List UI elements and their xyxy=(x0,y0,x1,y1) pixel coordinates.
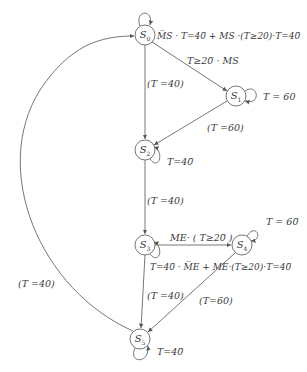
label-s1-s2: (T =60) xyxy=(207,122,244,133)
label-s5-s0: (T =40) xyxy=(18,278,55,289)
node-s0: S0 xyxy=(135,25,155,49)
label-s4-self: T = 60̅ xyxy=(266,216,298,227)
label-s3-self: T=40̅ · M̅E + ME·(T≥20)·T=40̅ xyxy=(150,262,291,273)
diagram-edges xyxy=(0,0,307,372)
node-s3: S3 xyxy=(135,235,155,259)
label-s2-s3: (T =40) xyxy=(147,195,184,206)
label-s5-self: T=40̅ xyxy=(157,346,183,357)
node-s1: S1 xyxy=(226,86,246,110)
node-s2: S2 xyxy=(135,140,155,164)
label-s3-s5: (T =40) xyxy=(147,290,184,301)
node-s4: S4 xyxy=(232,235,252,259)
label-s0-s2: (T =40) xyxy=(147,78,184,89)
label-s4-s5: (T=60) xyxy=(199,295,233,306)
label-s3-s4: ME· ( T≥20̅ ) xyxy=(170,232,233,243)
label-s0-s1: T≥20̅ · MS xyxy=(187,55,239,66)
state-diagram: S0 S1 S2 S3 S4 S5 M̅S · T=40̅ + MS ·(T≥2… xyxy=(0,0,307,372)
node-s5: S5 xyxy=(130,329,150,353)
label-s1-self: T = 60 xyxy=(263,91,295,102)
label-s0-self: M̅S · T=40̅ + MS ·(T≥20)·T=40̅ xyxy=(157,31,300,42)
label-s2-self: T=40̅ xyxy=(167,156,193,167)
